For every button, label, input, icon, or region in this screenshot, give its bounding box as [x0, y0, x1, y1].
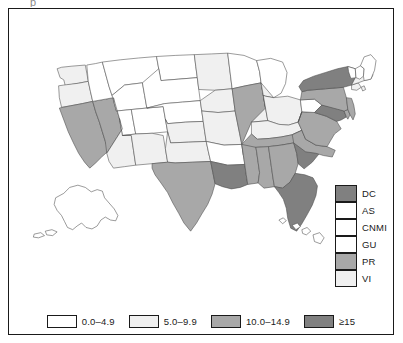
- value-legend-label: 0.0–4.9: [82, 316, 115, 327]
- legend-swatch-15-plus: [304, 315, 334, 328]
- territory-label: DC: [362, 185, 376, 202]
- state-tx: [152, 161, 215, 231]
- value-legend-label: 10.0–14.9: [246, 316, 290, 327]
- territory-swatch-dc: [335, 185, 357, 202]
- figure-root: p DCASCNMIGUPRVI 0.0–4.95.0–9.910.0–14.9…: [0, 0, 403, 343]
- state-la: [211, 161, 248, 188]
- territory-swatch-vi: [335, 270, 357, 287]
- territory-label: AS: [362, 202, 375, 219]
- territory-swatch-as: [335, 202, 357, 219]
- territory-swatch-cnmi: [335, 219, 357, 236]
- value-legend-label: 5.0–9.9: [164, 316, 197, 327]
- territory-legend-row: VI: [335, 270, 387, 287]
- state-co: [131, 107, 167, 134]
- territory-label: PR: [362, 253, 376, 270]
- clipped-text-above-frame: p: [30, 0, 50, 7]
- value-legend: 0.0–4.95.0–9.910.0–14.9≥15: [9, 315, 393, 328]
- state-ri: [361, 86, 365, 91]
- legend-swatch-5-9: [129, 315, 159, 328]
- states-layer: [33, 53, 376, 244]
- state-mo: [202, 111, 242, 145]
- state-ia: [200, 89, 235, 113]
- state-mn: [194, 53, 232, 90]
- territory-legend-row: PR: [335, 253, 387, 270]
- value-legend-item: 5.0–9.9: [129, 315, 197, 328]
- territory-label: VI: [362, 270, 371, 287]
- territory-label: GU: [362, 236, 377, 253]
- state-wi: [228, 53, 261, 89]
- state-nd: [157, 55, 198, 81]
- map-area: DCASCNMIGUPRVI: [9, 9, 393, 301]
- territory-legend-row: GU: [335, 236, 387, 253]
- territory-swatch-gu: [335, 236, 357, 253]
- value-legend-label: ≥15: [339, 316, 355, 327]
- territory-legend-row: DC: [335, 185, 387, 202]
- legend-swatch-10-14: [211, 315, 241, 328]
- territory-legend-row: CNMI: [335, 219, 387, 236]
- value-legend-item: 10.0–14.9: [211, 315, 290, 328]
- territory-legend: DCASCNMIGUPRVI: [335, 185, 387, 287]
- us-choropleth-map: [23, 13, 379, 301]
- value-legend-item: 0.0–4.9: [47, 315, 115, 328]
- legend-swatch-0-4: [47, 315, 77, 328]
- value-legend-item: ≥15: [304, 315, 355, 328]
- territory-legend-row: AS: [335, 202, 387, 219]
- territory-swatch-pr: [335, 253, 357, 270]
- figure-frame: DCASCNMIGUPRVI 0.0–4.95.0–9.910.0–14.9≥1…: [8, 8, 394, 335]
- state-oh: [263, 95, 302, 125]
- state-ak: [33, 185, 118, 238]
- territory-label: CNMI: [362, 219, 387, 236]
- state-ny: [299, 67, 356, 92]
